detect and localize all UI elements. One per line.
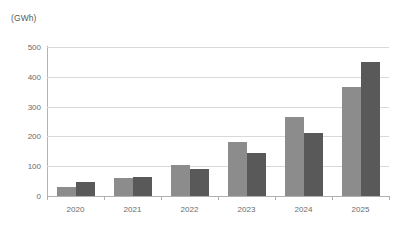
x-tick-2024 — [275, 196, 276, 200]
x-tick-2025 — [332, 196, 333, 200]
bar-2025-series-2 — [361, 62, 380, 196]
x-tick-2021 — [104, 196, 105, 200]
bar-group-2024 — [275, 47, 332, 196]
x-category-label-2021: 2021 — [124, 205, 142, 214]
x-tick-2022 — [161, 196, 162, 200]
x-tick-2020 — [47, 196, 48, 200]
bar-2023-series-2 — [247, 153, 266, 196]
bar-2022-series-1 — [171, 165, 190, 196]
y-tick-label-200: 200 — [28, 132, 41, 141]
x-tick-end — [389, 196, 390, 200]
x-category-label-2025: 2025 — [352, 205, 370, 214]
y-tick-label-500: 500 — [28, 43, 41, 52]
bar-2020-series-2 — [76, 182, 95, 196]
bar-chart: (GWh) 0100200300400500 20202021202220232… — [0, 0, 407, 229]
plot-area — [47, 47, 389, 196]
y-tick-label-300: 300 — [28, 102, 41, 111]
x-tick-2023 — [218, 196, 219, 200]
bar-group-2021 — [104, 47, 161, 196]
bar-2025-series-1 — [342, 87, 361, 196]
x-category-label-2022: 2022 — [181, 205, 199, 214]
bar-2024-series-2 — [304, 133, 323, 196]
x-category-label-2020: 2020 — [67, 205, 85, 214]
bar-group-2023 — [218, 47, 275, 196]
bar-group-2020 — [47, 47, 104, 196]
y-tick-label-0: 0 — [37, 192, 41, 201]
bar-group-2025 — [332, 47, 389, 196]
bar-2024-series-1 — [285, 117, 304, 196]
y-tick-label-400: 400 — [28, 72, 41, 81]
x-category-label-2024: 2024 — [295, 205, 313, 214]
y-tick-label-100: 100 — [28, 162, 41, 171]
bar-2022-series-2 — [190, 169, 209, 196]
bar-2021-series-1 — [114, 178, 133, 196]
bar-group-2022 — [161, 47, 218, 196]
bar-2020-series-1 — [57, 187, 76, 196]
bar-2023-series-1 — [228, 142, 247, 196]
y-axis-tick-labels: 0100200300400500 — [0, 0, 41, 229]
x-category-label-2023: 2023 — [238, 205, 256, 214]
bar-2021-series-2 — [133, 177, 152, 196]
